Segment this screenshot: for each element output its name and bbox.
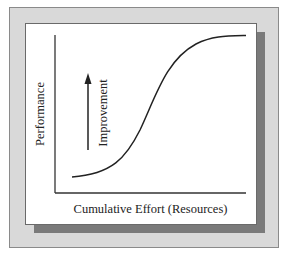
x-axis-label: Cumulative Effort (Resources) (55, 202, 246, 217)
y-axis-label: Performance (33, 82, 48, 146)
up-arrow-icon (85, 73, 92, 150)
improvement-label: Improvement (96, 79, 111, 146)
